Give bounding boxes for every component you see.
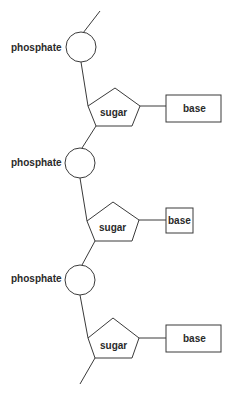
phosphate-sugar-bond: [80, 178, 87, 221]
sugar-phosphate-bond: [82, 241, 95, 265]
phosphate-sugar-bond: [80, 295, 88, 338]
phosphate-circle: [65, 148, 95, 178]
nucleotide-1: phosphate sugar base: [11, 32, 221, 148]
sugar-label: sugar: [99, 222, 126, 233]
phosphate-label: phosphate: [11, 273, 62, 284]
phosphate-sugar-bond: [81, 62, 88, 106]
phosphate-label: phosphate: [11, 42, 62, 53]
base-label: base: [183, 333, 206, 344]
sugar-pentagon: [88, 318, 139, 358]
phosphate-circle: [65, 265, 95, 295]
phosphate-label: phosphate: [11, 157, 62, 168]
nucleotide-3: phosphate sugar base: [11, 265, 221, 358]
phosphate-circle: [66, 32, 96, 62]
nucleotide-2: phosphate sugar base: [11, 148, 193, 265]
sugar-phosphate-bond: [82, 126, 96, 148]
backbone-top-stub: [83, 11, 100, 33]
dna-strand-diagram: phosphate sugar base phosphate sugar bas…: [0, 0, 231, 402]
base-label: base: [183, 103, 206, 114]
sugar-label: sugar: [100, 340, 127, 351]
backbone-bottom-stub: [80, 358, 95, 384]
sugar-label: sugar: [100, 107, 127, 118]
base-label: base: [168, 215, 191, 226]
